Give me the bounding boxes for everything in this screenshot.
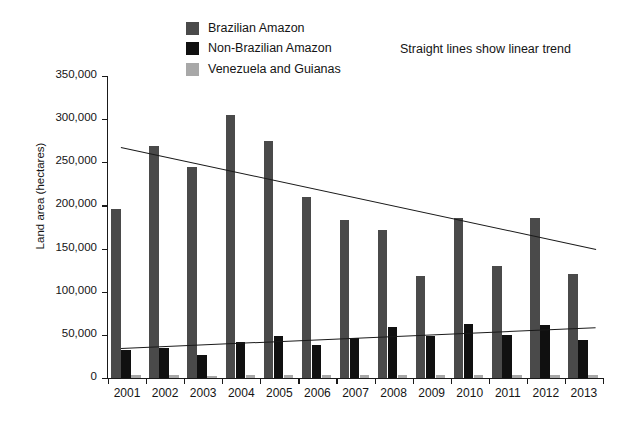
x-axis-tick-label: 2009	[413, 386, 451, 400]
legend-label-brazilian-amazon: Brazilian Amazon	[208, 22, 305, 35]
y-axis-tick: 200,000	[102, 205, 108, 206]
legend-swatch-brazilian-amazon	[186, 22, 199, 35]
bar	[322, 375, 332, 378]
bar	[236, 342, 246, 378]
y-axis-line	[107, 76, 108, 379]
x-axis-tick	[565, 378, 566, 384]
bar	[568, 274, 578, 378]
bar	[378, 230, 388, 378]
x-axis-line	[107, 378, 604, 379]
bar	[187, 167, 197, 378]
bar	[121, 350, 131, 378]
y-axis-tick-label: 50,000	[62, 327, 97, 339]
legend-swatch-venezuela-and-guianas	[186, 63, 199, 76]
x-axis-tick-label: 2007	[336, 386, 374, 400]
y-axis-tick-label: 250,000	[55, 154, 97, 166]
y-axis-tick: 50,000	[102, 335, 108, 336]
bar	[530, 218, 540, 378]
bar	[207, 376, 217, 378]
bar	[302, 197, 312, 378]
bar	[426, 336, 436, 378]
x-axis-tick	[108, 378, 109, 384]
bar	[284, 375, 294, 378]
bar	[416, 276, 426, 378]
x-axis-tick	[260, 378, 261, 384]
x-axis-tick	[184, 378, 185, 384]
trendline-note: Straight lines show linear trend	[400, 42, 571, 56]
legend-item-venezuela-and-guianas: Venezuela and Guianas	[186, 61, 341, 77]
y-axis-tick: 150,000	[102, 249, 108, 250]
x-axis-tick	[451, 378, 452, 384]
bar	[502, 335, 512, 378]
bar	[550, 375, 560, 378]
bar	[197, 355, 207, 378]
x-axis-tick-label: 2001	[108, 386, 146, 400]
legend-item-brazilian-amazon: Brazilian Amazon	[186, 20, 305, 36]
bar	[246, 375, 256, 378]
bar	[340, 220, 350, 378]
x-axis-tick	[336, 378, 337, 384]
x-axis-tick-label: 2008	[375, 386, 413, 400]
bar	[226, 115, 236, 378]
x-axis-tick	[413, 378, 414, 384]
x-axis-tick-label: 2003	[184, 386, 222, 400]
x-axis-tick-label: 2013	[565, 386, 603, 400]
bar	[540, 325, 550, 378]
bar	[312, 345, 322, 378]
y-axis-tick-label: 150,000	[55, 241, 97, 253]
bar	[512, 375, 522, 378]
bar	[436, 375, 446, 378]
y-axis-title: Land area (hectares)	[34, 86, 46, 306]
legend-swatch-non-brazilian-amazon	[186, 42, 199, 55]
y-axis-tick-label: 200,000	[55, 197, 97, 209]
x-axis-tick-label: 2010	[451, 386, 489, 400]
x-axis-tick-label: 2006	[298, 386, 336, 400]
y-axis-tick-label: 350,000	[55, 68, 97, 80]
y-axis-tick: 100,000	[102, 292, 108, 293]
x-axis-tick-label: 2005	[260, 386, 298, 400]
x-axis-tick	[603, 378, 604, 384]
bar	[360, 375, 370, 378]
bar	[578, 340, 588, 378]
x-axis-tick	[222, 378, 223, 384]
bar	[474, 375, 484, 378]
y-axis-tick-label: 100,000	[55, 284, 97, 296]
x-axis-tick	[527, 378, 528, 384]
bar	[588, 375, 598, 378]
x-axis-tick-label: 2004	[222, 386, 260, 400]
bar	[111, 209, 121, 378]
bar	[388, 327, 398, 378]
bar	[131, 375, 141, 378]
chart-page: Brazilian Amazon Non-Brazilian Amazon Ve…	[0, 0, 634, 421]
y-axis-tick: 300,000	[102, 119, 108, 120]
legend-label-venezuela-and-guianas: Venezuela and Guianas	[208, 63, 341, 76]
bar	[350, 338, 360, 378]
y-axis-tick: 250,000	[102, 162, 108, 163]
x-axis-tick	[298, 378, 299, 384]
bar	[149, 146, 159, 378]
bar	[169, 375, 179, 378]
bar	[492, 266, 502, 378]
y-axis-tick: 350,000	[102, 76, 108, 77]
legend-item-non-brazilian-amazon: Non-Brazilian Amazon	[186, 40, 332, 56]
x-axis-tick	[375, 378, 376, 384]
chart-legend: Brazilian Amazon Non-Brazilian Amazon Ve…	[186, 18, 606, 80]
bar	[398, 375, 408, 378]
legend-label-non-brazilian-amazon: Non-Brazilian Amazon	[208, 42, 332, 55]
x-axis-tick	[146, 378, 147, 384]
y-axis-tick-label: 0	[91, 370, 97, 382]
x-axis-tick	[489, 378, 490, 384]
bar	[454, 218, 464, 378]
y-axis-tick-label: 300,000	[55, 111, 97, 123]
bar	[159, 348, 169, 378]
x-axis-tick-label: 2011	[489, 386, 527, 400]
x-axis-tick-label: 2002	[146, 386, 184, 400]
plot-area: 050,000100,000150,000200,000250,000300,0…	[108, 76, 603, 378]
x-axis-tick-label: 2012	[527, 386, 565, 400]
